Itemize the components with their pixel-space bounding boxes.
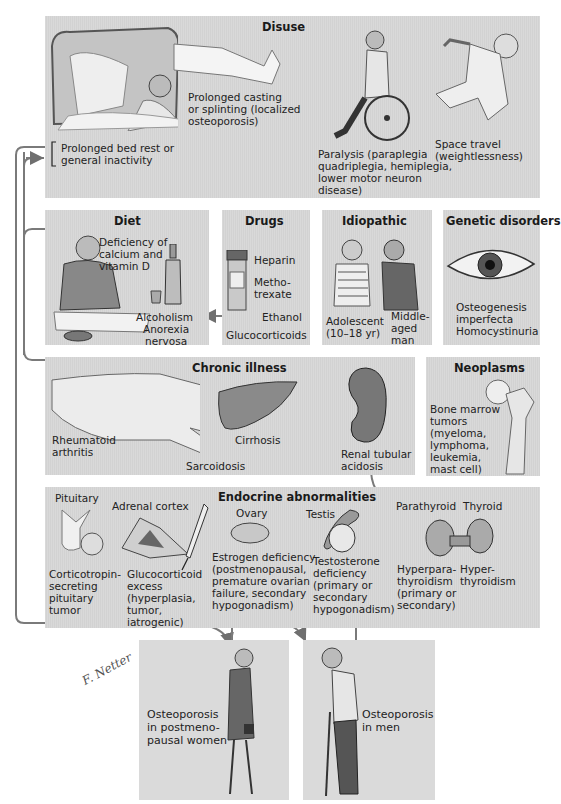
genetic-label: Osteogenesis imperfecta Homocystinuria [456,301,538,337]
elderly-man-illustration [310,646,365,800]
leg-cast-illustration [172,40,282,90]
adrenal-cortex-label: Adrenal cortex [112,500,189,512]
ovary-text: Estrogen deficiency (postmenopausal, pre… [212,551,315,611]
parathyroid-text: Hyperpara- thyroidism (primary or second… [397,563,456,611]
bed-rest-illustration [48,26,178,131]
ovary-illustration [229,521,271,545]
astronaut-illustration [430,24,530,124]
alcoholism-label: Alcoholism [136,311,193,323]
testis-text: Testosterone deficiency (primary or seco… [313,555,395,615]
deficiency-label: Deficiency of calcium and vitamin D [99,236,167,272]
chronic-illness-title: Chronic illness [192,361,287,375]
thyroid-illustration [424,516,496,558]
pituitary-text: Corticotropin- secreting pituitary tumor [49,568,121,616]
bracket-icon [51,141,57,167]
ovary-label: Ovary [236,507,267,519]
thyroid-text: Hyper- thyroidism [460,563,516,587]
idiopathic-title: Idiopathic [342,214,407,228]
adrenal-text: Glucocorticoid excess (hyperplasia, tumo… [127,568,202,628]
testis-illustration [320,506,362,554]
drugs-title: Drugs [245,214,283,228]
renal-tubular-acidosis-label: Renal tubular acidosis [341,448,411,472]
pill-bottle-icon [226,250,248,312]
rheumatoid-arthritis-label: Rheumatoid arthritis [52,434,116,458]
syringe-icon [180,502,210,572]
middle-aged-label: Middle- aged man [391,310,429,346]
casting-label: Prolonged casting or splinting (localize… [188,91,301,127]
thyroid-label: Thyroid [463,500,502,512]
wheelchair-illustration [325,26,420,141]
drug-glucocorticoids: Glucocorticoids [226,329,307,341]
neoplasms-title: Neoplasms [454,361,525,375]
eye-illustration [446,244,536,284]
adolescent-and-man-illustration [326,236,426,314]
sarcoidosis-label: Sarcoidosis [186,460,245,472]
women-outcome-label: Osteoporosis in postmeno- pausal women [147,708,227,747]
parathyroid-label: Parathyroid [396,500,456,512]
pituitary-label: Pituitary [55,492,99,504]
men-outcome-label: Osteoporosis in men [362,708,433,734]
glass-icon [150,290,162,304]
paralysis-label: Paralysis (paraplegia quadriplegia, hemi… [318,148,452,196]
genetic-title: Genetic disorders [446,214,561,228]
drug-methotrexate: Metho- trexate [254,276,292,300]
drug-heparin: Heparin [254,254,295,266]
disuse-title: Disuse [262,20,305,34]
liver-illustration [215,378,300,433]
kidney-illustration [344,366,389,446]
cirrhosis-label: Cirrhosis [235,434,280,446]
diet-title: Diet [114,214,141,228]
bed-rest-label: Prolonged bed rest or general inactivity [61,142,174,166]
endocrine-title: Endocrine abnormalities [218,490,376,504]
adolescent-label: Adolescent (10–18 yr) [326,315,384,339]
space-travel-label: Space travel (weightlessness) [435,138,523,162]
pituitary-illustration [56,508,104,558]
neoplasms-label: Bone marrow tumors (myeloma, lymphoma, l… [430,403,500,475]
drug-ethanol: Ethanol [262,311,302,323]
anorexia-label: Anorexia nervosa [143,323,189,347]
